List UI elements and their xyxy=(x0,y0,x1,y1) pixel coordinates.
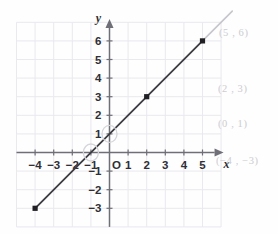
svg-text:O: O xyxy=(112,159,121,171)
svg-text:−4: −4 xyxy=(29,159,43,171)
svg-text:3: 3 xyxy=(162,159,168,171)
svg-text:1: 1 xyxy=(125,159,132,171)
svg-text:−1: −1 xyxy=(88,165,102,177)
annotation-point-2-3: (2 , 3) xyxy=(218,83,248,94)
annotation-point-0-1: (0 , 1) xyxy=(218,118,248,129)
svg-text:−3: −3 xyxy=(47,159,60,171)
svg-text:6: 6 xyxy=(95,35,101,47)
svg-text:3: 3 xyxy=(95,91,101,103)
graph-figure: −4−3−2−112345−3−2−1123456O xy (5 , 6) (2… xyxy=(0,0,278,234)
annotation-point-5-6: (5 , 6) xyxy=(219,27,249,38)
svg-text:5: 5 xyxy=(199,159,206,171)
svg-text:y: y xyxy=(94,11,102,25)
svg-text:−2: −2 xyxy=(66,159,79,171)
svg-text:4: 4 xyxy=(181,159,188,171)
svg-text:5: 5 xyxy=(95,54,102,66)
svg-text:−3: −3 xyxy=(88,202,101,214)
svg-text:2: 2 xyxy=(95,109,101,121)
svg-text:1: 1 xyxy=(95,128,102,140)
svg-text:−2: −2 xyxy=(88,184,101,196)
svg-text:2: 2 xyxy=(143,159,149,171)
svg-text:4: 4 xyxy=(95,72,102,84)
annotation-point-neg4-neg3: (−4 , −3) xyxy=(216,155,259,166)
